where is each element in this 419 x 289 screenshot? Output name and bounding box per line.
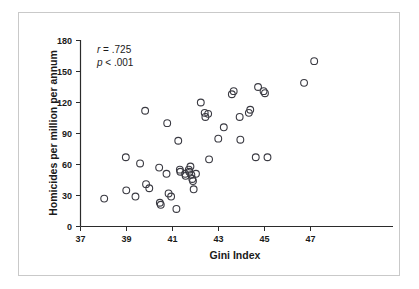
correlation-value: = .725 (100, 44, 131, 55)
data-point (311, 58, 318, 65)
pvalue-annotation: p < .001 (96, 57, 134, 68)
data-points-layer (101, 58, 318, 213)
data-point (220, 124, 227, 131)
data-point (262, 90, 269, 97)
y-tick-label: 120 (57, 98, 72, 108)
data-point (190, 186, 197, 193)
data-point (101, 195, 108, 202)
correlation-annotation: r = .725 (97, 44, 132, 55)
x-tick-labels: 37 39 41 43 45 47 (75, 234, 315, 244)
y-tick-label: 30 (62, 191, 72, 201)
x-tick-label: 41 (167, 234, 177, 244)
x-tick-label: 47 (305, 234, 315, 244)
data-point (164, 120, 171, 127)
scatter-plot: 180 150 120 90 60 30 0 37 39 41 43 45 47… (0, 0, 419, 289)
data-point (252, 154, 259, 161)
y-tick-label: 150 (57, 67, 72, 77)
data-point (197, 99, 204, 106)
data-point (156, 164, 163, 171)
x-tick-marks (81, 227, 311, 232)
data-point (237, 136, 244, 143)
data-point (132, 193, 139, 200)
y-tick-label: 0 (67, 222, 72, 232)
data-point (175, 137, 182, 144)
figure-container: 180 150 120 90 60 30 0 37 39 41 43 45 47… (0, 0, 419, 289)
data-point (236, 114, 243, 121)
y-tick-label: 60 (62, 160, 72, 170)
data-point (142, 107, 149, 114)
y-tick-marks (76, 41, 81, 227)
y-tick-labels: 180 150 120 90 60 30 0 (57, 36, 72, 232)
data-point (206, 156, 213, 163)
y-axis-title: Homicides per million per annum (47, 50, 59, 216)
data-point (137, 160, 144, 167)
data-point (163, 170, 170, 177)
data-point (123, 187, 130, 194)
data-point (193, 170, 200, 177)
stats-annotation: r = .725 p < .001 (96, 44, 134, 68)
x-tick-label: 39 (121, 234, 131, 244)
data-point (122, 154, 129, 161)
x-tick-label: 43 (213, 234, 223, 244)
x-tick-label: 37 (75, 234, 85, 244)
data-point (215, 135, 222, 142)
x-tick-label: 45 (259, 234, 269, 244)
data-point (301, 79, 308, 86)
data-point (173, 206, 180, 213)
y-tick-label: 90 (62, 129, 72, 139)
y-tick-label: 180 (57, 36, 72, 46)
data-point (264, 154, 271, 161)
pvalue-value: < .001 (103, 57, 134, 68)
x-axis-title: Gini Index (210, 249, 261, 261)
